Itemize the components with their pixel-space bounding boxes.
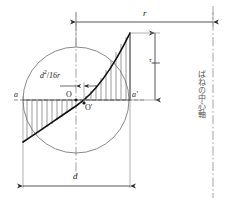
label-point-a: a (14, 91, 18, 99)
label-offset-d2-16r: d2/16r (40, 70, 60, 80)
center-point-o-marker (75, 99, 78, 102)
label-center-o: O (66, 91, 72, 99)
diagram-canvas (0, 0, 229, 202)
label-tau-subscript: max (152, 60, 161, 65)
centerlines (76, 6, 213, 198)
label-center-o-prime: O′ (85, 104, 93, 112)
label-point-a-prime: a′ (132, 91, 138, 99)
torsional-stress-figure: r d a a′ O O′ τmax d2/16r ばねの中心軸 (0, 0, 229, 202)
label-offset-denominator: 16r (49, 71, 60, 80)
label-spring-center-axis: ばねの中心軸 (196, 70, 204, 118)
hatch-left-region (27, 100, 72, 139)
hatch-right-region (86, 37, 126, 100)
label-tau-max: τmax (149, 57, 160, 65)
stress-distribution-curve (23, 33, 130, 142)
label-radius-r: r (143, 9, 147, 18)
label-diameter-d: d (73, 172, 78, 181)
